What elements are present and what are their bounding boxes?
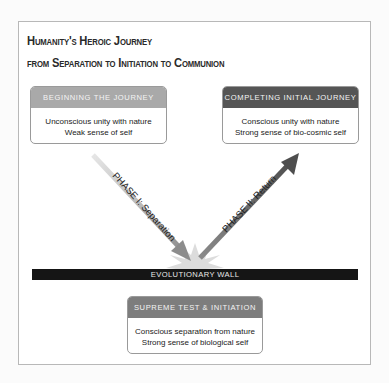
box-supreme-test: SUPREME TEST & INITIATION Conscious sepa… <box>127 296 263 354</box>
box-completing-journey: COMPLETING INITIAL JOURNEY Conscious uni… <box>222 86 359 144</box>
box-header: SUPREME TEST & INITIATION <box>128 297 262 318</box>
evolutionary-wall: EVOLUTIONARY WALL <box>32 269 358 280</box>
box-line: Conscious separation from nature <box>128 326 262 337</box>
starburst-icon <box>166 243 224 270</box>
box-beginning-journey: BEGINNING THE JOURNEY Unconscious unity … <box>30 86 167 144</box>
box-header: COMPLETING INITIAL JOURNEY <box>223 87 358 108</box>
box-body: Conscious separation from nature Strong … <box>128 318 262 348</box>
box-line: Conscious unity with nature <box>223 116 358 127</box>
box-line: Strong sense of biological self <box>128 337 262 348</box>
box-line: Strong sense of bio-cosmic self <box>223 127 358 138</box>
box-body: Unconscious unity with nature Weak sense… <box>31 108 166 138</box>
box-line: Unconscious unity with nature <box>31 116 166 127</box>
wall-label: EVOLUTIONARY WALL <box>32 269 358 280</box>
box-line: Weak sense of self <box>31 127 166 138</box>
box-header: BEGINNING THE JOURNEY <box>31 87 166 108</box>
box-body: Conscious unity with nature Strong sense… <box>223 108 358 138</box>
